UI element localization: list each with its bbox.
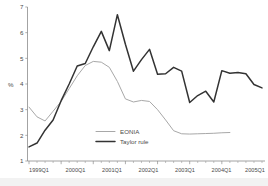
x-tick-label-2002Q1: 2002Q1 (139, 167, 159, 173)
x-tick-label-2004Q1: 2004Q1 (212, 167, 232, 173)
x-tick-label-1999Q1: 1999Q1 (29, 167, 49, 173)
x-tick-label-2005Q1: 2005Q1 (245, 167, 265, 173)
y-axis-title: % (8, 81, 14, 88)
y-tick-label-6: 6 (20, 29, 24, 36)
y-tick-label-2: 2 (20, 132, 24, 139)
y-tick-label-1: 1 (20, 157, 24, 164)
y-tick-label-7: 7 (20, 3, 24, 10)
line-chart: 1 2 3 4 5 6 7 % 1999Q1 2000Q1 2001Q1 200… (0, 0, 268, 186)
x-tick-label-2003Q1: 2003Q1 (175, 167, 195, 173)
x-tick-label-2000Q1: 2000Q1 (66, 167, 86, 173)
y-tick-label-4: 4 (20, 80, 24, 87)
bottom-edge-strip (0, 178, 268, 186)
y-tick-label-3: 3 (20, 106, 24, 113)
y-tick-label-5: 5 (20, 55, 24, 62)
legend-label-eonia: EONIA (120, 128, 140, 135)
chart-background (0, 0, 268, 186)
legend-label-taylor-rule: Taylor rule (120, 138, 149, 145)
chart-screenshot: 1 2 3 4 5 6 7 % 1999Q1 2000Q1 2001Q1 200… (0, 0, 268, 186)
x-tick-label-2001Q1: 2001Q1 (102, 167, 122, 173)
